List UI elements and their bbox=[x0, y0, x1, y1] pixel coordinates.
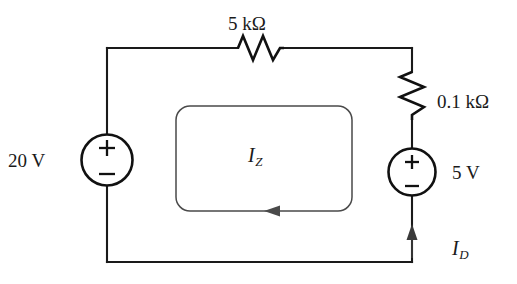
mesh-current-label: IZ bbox=[248, 145, 262, 168]
branch-current-symbol: I bbox=[452, 237, 459, 259]
mesh-current-loop bbox=[176, 106, 352, 211]
branch-current-arrow-head bbox=[407, 224, 418, 240]
branch-current-label: ID bbox=[452, 238, 469, 261]
mesh-current-symbol: I bbox=[248, 144, 255, 166]
voltage-source-right-label: 5 V bbox=[452, 163, 480, 182]
resistor-right-symbol bbox=[400, 72, 424, 120]
circuit-schematic-canvas bbox=[0, 0, 517, 284]
branch-current-subscript: D bbox=[459, 247, 469, 262]
mesh-current-subscript: Z bbox=[255, 154, 263, 169]
resistor-top-symbol bbox=[238, 36, 284, 60]
mesh-current-arrow-head bbox=[264, 206, 280, 217]
circuit-diagram: 5 kΩ 0.1 kΩ 20 V 5 V IZ ID bbox=[0, 0, 517, 284]
resistor-right-label: 0.1 kΩ bbox=[437, 92, 489, 111]
resistor-top-label: 5 kΩ bbox=[228, 14, 266, 33]
voltage-source-left-label: 20 V bbox=[8, 151, 45, 170]
